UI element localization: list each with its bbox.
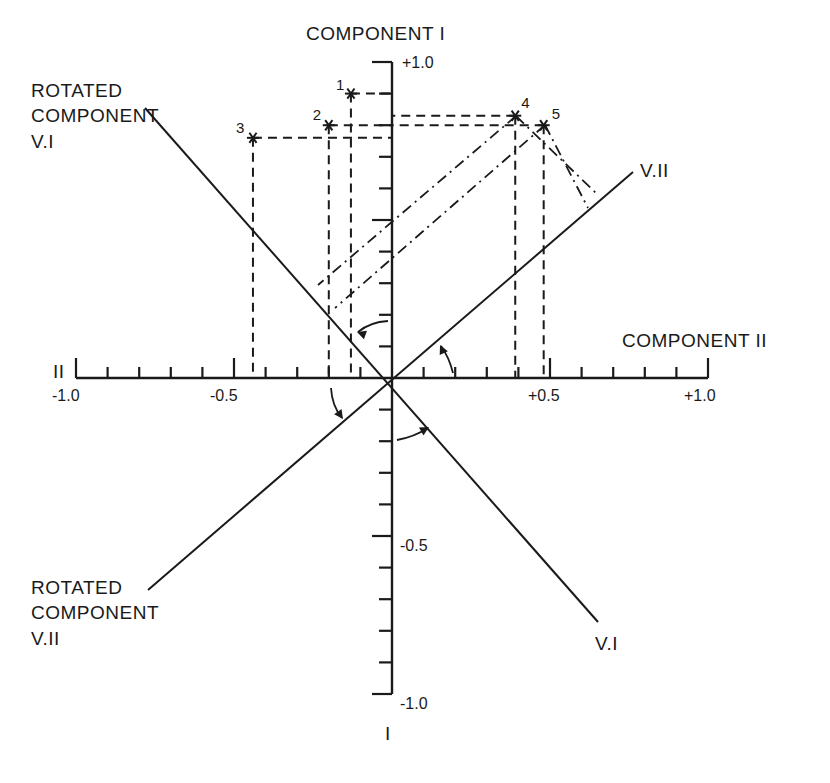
dash-dot-rotated-projections: [318, 116, 598, 308]
x-tick-label-pos-1: +1.0: [684, 387, 716, 404]
point-3: 3: [236, 119, 259, 143]
x-tick-label-neg-0-5: -0.5: [210, 387, 238, 404]
rotation-arrow-1: [358, 321, 388, 332]
y-tick-label-pos-1: +1.0: [402, 54, 434, 71]
vertical-axis-title: COMPONENT I: [306, 23, 445, 44]
point-4: 4: [509, 94, 529, 121]
rotated-v2-title-line-3: V.II: [31, 628, 60, 649]
rotated-axis-v2: [148, 172, 633, 590]
rotated-v2-title-line-1: ROTATED: [31, 577, 122, 598]
dashdot-to-v2-4: [516, 116, 598, 195]
point-label: 2: [313, 106, 321, 123]
x-tick-label-pos-0-5: +0.5: [528, 387, 560, 404]
point-label: 4: [521, 94, 529, 111]
point-2: 2: [313, 106, 335, 130]
arrowhead-icon: [334, 409, 343, 419]
rotated-v1-title-line-1: ROTATED: [31, 80, 122, 101]
rotated-v1-title-line-2: COMPONENT: [31, 105, 159, 126]
arrowhead-icon: [357, 331, 367, 339]
dashdot-to-v1-4: [318, 116, 516, 285]
dashed-projection-lines: [253, 94, 544, 378]
point-5: 5: [538, 105, 560, 130]
horizontal-axis-title: COMPONENT II: [622, 330, 767, 351]
dashdot-to-v1-5: [335, 125, 545, 308]
arrowhead-icon: [419, 427, 429, 435]
rotated-v1-end-label: V.I: [595, 633, 618, 654]
plot-canvas: 12345 COMPONENT I I COMPONENT II II ROTA…: [0, 0, 830, 783]
y-tick-label-neg-0-5: -0.5: [400, 537, 428, 554]
factor-rotation-diagram: 12345 COMPONENT I I COMPONENT II II ROTA…: [0, 0, 830, 783]
dashdot-to-v2-5: [545, 125, 588, 208]
rotated-v1-title-line-3: V.I: [31, 131, 54, 152]
point-1: 1: [336, 76, 357, 99]
rotated-axis-v1: [145, 108, 598, 622]
point-label: 3: [236, 119, 244, 136]
data-points: 12345: [236, 76, 560, 143]
horizontal-axis-end-label: II: [53, 361, 65, 382]
rotated-axes: [145, 108, 633, 622]
rotated-v2-end-label: V.II: [640, 160, 669, 181]
y-tick-label-neg-1: -1.0: [400, 695, 428, 712]
point-label: 5: [552, 105, 560, 122]
point-label: 1: [336, 76, 344, 93]
x-tick-label-neg-1: -1.0: [52, 387, 80, 404]
rotated-v2-title-line-2: COMPONENT: [31, 602, 159, 623]
vertical-axis-end-label: I: [385, 723, 391, 744]
